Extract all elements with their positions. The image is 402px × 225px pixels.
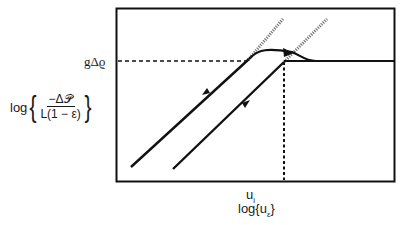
x-axis-label-prefix: log{u	[238, 201, 267, 216]
y-marked-value-label: gΔϱ	[84, 54, 105, 70]
plot-frame	[117, 9, 395, 182]
y-axis-numerator: −Δ𝒫	[47, 92, 75, 107]
y-axis-fraction: −Δ𝒫 L(1 − ε)	[38, 92, 82, 122]
y-axis-label: log { −Δ𝒫 L(1 − ε) }	[10, 92, 93, 122]
x-axis-label-suffix: }	[271, 201, 275, 216]
hatched-extension-right	[284, 19, 327, 62]
left-brace-icon: {	[30, 92, 37, 122]
arrow-up-icon	[202, 88, 210, 95]
x-axis-label: log{uε}	[238, 201, 275, 219]
right-brace-icon: }	[84, 92, 91, 122]
transition-curve	[249, 50, 316, 61]
y-axis-denominator: L(1 − ε)	[38, 107, 82, 122]
y-axis-log-prefix: log	[10, 100, 27, 115]
